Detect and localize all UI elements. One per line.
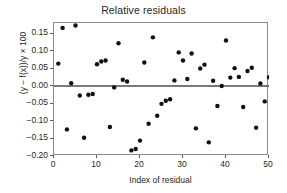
data-point <box>220 84 224 88</box>
data-point <box>73 23 77 27</box>
data-point <box>181 58 185 62</box>
data-point <box>69 81 73 85</box>
data-point <box>177 50 181 54</box>
chart-figure: Relative residuals 0.150.100.050.00−0.05… <box>0 0 287 193</box>
x-tick-mark <box>96 155 97 158</box>
data-point <box>129 148 133 152</box>
data-point <box>267 75 269 79</box>
x-tick-label: 10 <box>84 159 108 169</box>
data-point <box>155 114 159 118</box>
y-tick-mark <box>50 138 53 139</box>
data-point <box>65 127 69 131</box>
data-point <box>159 102 163 106</box>
data-point <box>202 62 206 66</box>
scatter-plot-canvas <box>54 23 269 156</box>
data-point <box>232 66 236 70</box>
data-point <box>168 97 172 101</box>
y-tick-mark <box>50 120 53 121</box>
x-tick-label: 0 <box>41 159 65 169</box>
x-tick-mark <box>53 155 54 158</box>
data-point <box>258 81 262 85</box>
data-point <box>250 66 254 70</box>
data-points-group <box>56 23 269 152</box>
y-tick-label: −0.15 <box>12 132 48 142</box>
x-tick-mark <box>225 155 226 158</box>
x-tick-mark <box>268 155 269 158</box>
data-point <box>99 59 103 63</box>
y-axis-label: (y − f(x))/y × 100 <box>18 3 28 123</box>
data-point <box>198 66 202 70</box>
data-point <box>95 62 99 66</box>
data-point <box>228 75 232 79</box>
data-point <box>56 61 60 65</box>
data-point <box>108 125 112 129</box>
chart-title: Relative residuals <box>0 4 287 16</box>
data-point <box>146 122 150 126</box>
data-point <box>142 60 146 64</box>
data-point <box>112 85 116 89</box>
data-point <box>194 126 198 130</box>
data-point <box>189 51 193 55</box>
x-tick-label: 50 <box>256 159 280 169</box>
y-tick-mark <box>50 50 53 51</box>
data-point <box>116 41 120 45</box>
data-point <box>211 79 215 83</box>
data-point <box>121 78 125 82</box>
plot-area <box>53 22 268 155</box>
y-tick-label: −0.20 <box>12 150 48 160</box>
data-point <box>237 75 241 79</box>
y-tick-mark <box>50 103 53 104</box>
x-tick-label: 20 <box>127 159 151 169</box>
data-point <box>241 105 245 109</box>
x-tick-mark <box>182 155 183 158</box>
data-point <box>134 147 138 151</box>
data-point <box>91 92 95 96</box>
data-point <box>207 140 211 144</box>
x-axis-label: Index of residual <box>53 175 268 185</box>
data-point <box>172 78 176 82</box>
data-point <box>138 138 142 142</box>
y-tick-mark <box>50 68 53 69</box>
data-point <box>245 69 249 73</box>
y-tick-mark <box>50 85 53 86</box>
data-point <box>103 58 107 62</box>
data-point <box>82 136 86 140</box>
x-tick-mark <box>139 155 140 158</box>
data-point <box>151 35 155 39</box>
data-point <box>254 125 258 129</box>
data-point <box>86 93 90 97</box>
data-point <box>263 99 267 103</box>
x-tick-label: 30 <box>170 159 194 169</box>
data-point <box>215 104 219 108</box>
data-point <box>224 38 228 42</box>
data-point <box>125 79 129 83</box>
data-point <box>60 26 64 30</box>
y-tick-mark <box>50 33 53 34</box>
x-tick-label: 40 <box>213 159 237 169</box>
data-point <box>78 93 82 97</box>
data-point <box>185 77 189 81</box>
data-point <box>164 99 168 103</box>
